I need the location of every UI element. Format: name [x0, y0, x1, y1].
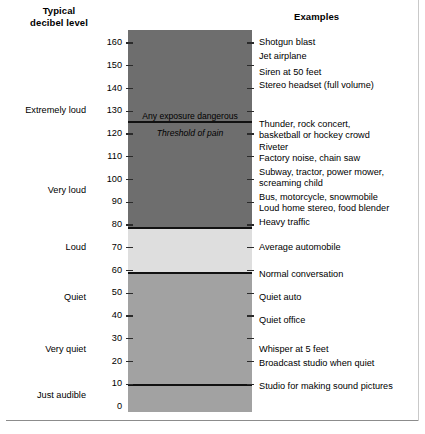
tick-right-150: [247, 65, 254, 66]
tick-left-70: [126, 247, 133, 248]
tick-right-120: [247, 133, 254, 134]
scale-number-130: 130: [92, 105, 122, 115]
category-label-loud: Loud: [0, 242, 86, 252]
tick-left-30: [126, 338, 133, 339]
tick-right-10: [247, 384, 254, 385]
annotation-threshold-of-pain: Threshold of pain: [128, 128, 252, 138]
bottom-divider: [6, 420, 419, 421]
right-divider: [418, 0, 419, 421]
scale-number-60: 60: [92, 265, 122, 275]
tick-left-80: [126, 224, 133, 225]
scale-number-70: 70: [92, 242, 122, 252]
tick-right-110: [247, 156, 254, 157]
example-label-16: Quiet office: [259, 315, 425, 327]
tick-left-140: [126, 88, 133, 89]
band-loud-zone: [128, 228, 252, 273]
example-label-5: basketball or hockey crowd: [259, 130, 425, 142]
category-label-very-loud: Very loud: [0, 185, 86, 195]
scale-number-10: 10: [92, 378, 122, 388]
scale-number-50: 50: [92, 287, 122, 297]
tick-left-100: [126, 179, 133, 180]
tick-right-140: [247, 88, 254, 89]
example-label-3: Stereo headset (full volume): [259, 80, 425, 92]
rule-60db: [128, 272, 252, 274]
scale-number-0: 0: [92, 401, 122, 411]
tick-right-160: [247, 42, 254, 43]
scale-number-110: 110: [92, 151, 122, 161]
scale-number-90: 90: [92, 196, 122, 206]
column-header-decibel-level: Typical decibel level: [0, 5, 118, 29]
tick-right-20: [247, 361, 254, 362]
category-label-extremely-loud: Extremely loud: [0, 105, 86, 115]
example-label-4: Thunder, rock concert,: [259, 119, 425, 131]
example-label-11: Loud home stereo, food blender: [259, 203, 425, 215]
example-label-7: Factory noise, chain saw: [259, 153, 425, 165]
tick-right-90: [247, 202, 254, 203]
tick-right-60: [247, 270, 254, 271]
decibel-level-chart: Typical decibel level Examples Any expos…: [0, 0, 425, 434]
tick-right-80: [247, 224, 254, 225]
example-label-0: Shotgun blast: [259, 37, 425, 49]
tick-left-40: [126, 315, 133, 316]
tick-right-130: [247, 111, 254, 112]
rule-10db: [128, 384, 252, 386]
annotation-any-exposure-dangerous: Any exposure dangerous: [128, 111, 252, 121]
tick-left-20: [126, 361, 133, 362]
example-label-9: screaming child: [259, 178, 425, 190]
scale-number-30: 30: [92, 333, 122, 343]
tick-left-110: [126, 156, 133, 157]
rule-threshold-of-pain: [128, 121, 252, 123]
scale-number-150: 150: [92, 60, 122, 70]
example-label-19: Studio for making sound pictures: [259, 381, 425, 393]
column-header-examples: Examples: [258, 11, 425, 23]
tick-left-150: [126, 65, 133, 66]
example-label-8: Subway, tractor, power mower,: [259, 167, 425, 179]
rule-80db: [128, 227, 252, 229]
example-label-15: Quiet auto: [259, 292, 425, 304]
example-label-13: Average automobile: [259, 242, 425, 254]
tick-left-160: [126, 42, 133, 43]
example-label-2: Siren at 50 feet: [259, 67, 425, 79]
category-label-just-audible: Just audible: [0, 390, 86, 400]
example-label-10: Bus, motorcycle, snowmobile: [259, 192, 425, 204]
scale-number-120: 120: [92, 128, 122, 138]
tick-left-60: [126, 270, 133, 271]
scale-number-40: 40: [92, 310, 122, 320]
tick-left-10: [126, 384, 133, 385]
scale-number-20: 20: [92, 356, 122, 366]
tick-right-40: [247, 315, 254, 316]
example-label-12: Heavy traffic: [259, 217, 425, 229]
scale-number-160: 160: [92, 37, 122, 47]
example-label-6: Riveter: [259, 142, 425, 154]
tick-right-50: [247, 293, 254, 294]
example-label-1: Jet airplane: [259, 51, 425, 63]
example-label-17: Whisper at 5 feet: [259, 344, 425, 356]
decibel-scale-bar: Any exposure dangerous Threshold of pain: [128, 30, 252, 412]
tick-right-70: [247, 247, 254, 248]
tick-left-130: [126, 111, 133, 112]
example-label-14: Normal conversation: [259, 269, 425, 281]
tick-left-90: [126, 202, 133, 203]
category-label-very-quiet: Very quiet: [0, 344, 86, 354]
category-label-quiet: Quiet: [0, 292, 86, 302]
tick-right-30: [247, 338, 254, 339]
scale-number-100: 100: [92, 174, 122, 184]
tick-right-100: [247, 179, 254, 180]
scale-number-140: 140: [92, 83, 122, 93]
band-quiet-zone: [128, 273, 252, 412]
tick-left-50: [126, 293, 133, 294]
example-label-18: Broadcast studio when quiet: [259, 358, 425, 370]
tick-left-120: [126, 133, 133, 134]
scale-number-80: 80: [92, 219, 122, 229]
